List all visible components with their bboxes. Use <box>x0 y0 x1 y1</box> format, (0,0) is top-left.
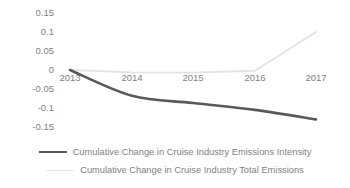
legend-item[interactable]: Cumulative Change in Cruise Industry Emi… <box>0 142 350 162</box>
series-layer <box>0 0 350 140</box>
series-line-emissions-intensity <box>70 70 316 119</box>
line-chart: 0.150.10.050-0.05-0.1-0.15 2013201420152… <box>0 0 350 188</box>
series-line-total-emissions <box>70 32 316 73</box>
legend-item-label: Cumulative Change in Cruise Industry Emi… <box>73 147 312 158</box>
plot-area: 0.150.10.050-0.05-0.1-0.15 2013201420152… <box>0 0 350 140</box>
legend-line-swatch-icon <box>39 151 67 153</box>
chart-legend: Cumulative Change in Cruise Industry Emi… <box>0 138 350 188</box>
legend-item-label: Cumulative Change in Cruise Industry Tot… <box>80 165 304 176</box>
legend-item[interactable]: Cumulative Change in Cruise Industry Tot… <box>0 160 350 180</box>
legend-line-swatch-icon <box>46 170 74 171</box>
